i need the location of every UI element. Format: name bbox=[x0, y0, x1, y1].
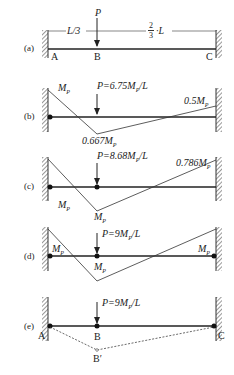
moment-right-d: MP bbox=[198, 244, 210, 256]
point-A-label-e: A bbox=[38, 331, 45, 341]
moment-left-b: MP bbox=[58, 83, 70, 95]
load-label-e: P=9MP/L bbox=[102, 298, 140, 310]
point-B-label-e: B bbox=[94, 332, 101, 342]
point-Bprime-label: B′ bbox=[93, 354, 102, 364]
moment-left-d: MP bbox=[52, 244, 64, 256]
span-right-num: 2 bbox=[149, 22, 153, 30]
beam-diagram-graphics bbox=[0, 0, 234, 375]
moment-left-c: MP bbox=[58, 200, 70, 212]
panel-caption-b: (b) bbox=[24, 112, 35, 121]
span-right-den: 3 bbox=[149, 32, 153, 40]
point-B-label: B bbox=[94, 52, 101, 62]
panel-caption-a: (a) bbox=[24, 44, 34, 53]
moment-mid-d: MP bbox=[94, 262, 106, 274]
point-A-label: A bbox=[51, 52, 58, 62]
panel-caption-e: (e) bbox=[24, 322, 34, 331]
moment-right-c: 0.786MP bbox=[176, 158, 211, 170]
load-label-b: P=6.75MP/L bbox=[97, 81, 148, 93]
panel-a-graphics bbox=[42, 18, 222, 58]
load-label-d: P=9MP/L bbox=[102, 229, 140, 241]
moment-mid-c: MP bbox=[94, 212, 106, 224]
panel-caption-d: (d) bbox=[24, 252, 35, 261]
point-C-label-e: C bbox=[218, 331, 225, 341]
load-label-c: P=8.68MP/L bbox=[97, 151, 148, 163]
load-label-a: P bbox=[95, 8, 101, 18]
span-right-suffix: ·L bbox=[156, 26, 164, 36]
panel-caption-c: (c) bbox=[24, 182, 34, 191]
moment-mid-b: 0.667MP bbox=[82, 136, 117, 148]
span-left-label: L/3 bbox=[67, 26, 80, 36]
point-C-label: C bbox=[206, 52, 213, 62]
moment-right-b: 0.5MP bbox=[184, 96, 209, 108]
